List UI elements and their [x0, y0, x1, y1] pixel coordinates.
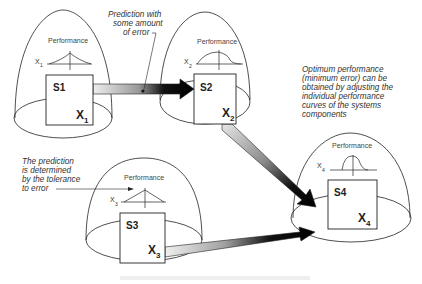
s1-performance-curve-icon: X 1	[35, 51, 92, 70]
svg-text:curves of the systems: curves of the systems	[302, 101, 381, 110]
svg-text:components: components	[302, 110, 347, 119]
annotation-tolerance: The prediction is determined by the tole…	[22, 157, 134, 193]
svg-text:by the tolerance: by the tolerance	[22, 175, 81, 184]
annotation-optimum: Optimum performance (minimum error) can …	[302, 65, 393, 119]
svg-text:(minimum error) can be: (minimum error) can be	[302, 74, 388, 83]
svg-text:4: 4	[366, 219, 371, 228]
s3-var: X	[148, 243, 156, 257]
svg-text:is determined: is determined	[22, 166, 72, 175]
svg-text:to error: to error	[22, 184, 49, 193]
system-box-s3: S3 X 3	[120, 213, 165, 263]
svg-text:1: 1	[40, 62, 43, 68]
s3-title: S3	[126, 220, 139, 231]
svg-text:2: 2	[230, 114, 235, 123]
svg-text:Prediction with: Prediction with	[108, 10, 162, 19]
system-box-s1: S1 X 1	[46, 75, 93, 125]
arrow-s1-to-s2	[93, 79, 194, 99]
svg-text:some amount: some amount	[113, 19, 163, 28]
s2-performance-curve-icon: X 2	[184, 50, 243, 70]
svg-text:The prediction: The prediction	[22, 157, 74, 166]
system-box-s2: S2 X 2	[194, 74, 236, 124]
s4-var: X	[358, 211, 366, 225]
arrow-s3-to-s4	[165, 227, 315, 257]
svg-text:4: 4	[322, 167, 325, 173]
svg-text:individual performance: individual performance	[302, 92, 385, 101]
annotation-prediction-error: Prediction with some amount of error	[108, 10, 163, 89]
s3-performance-label: Performance	[124, 174, 164, 181]
svg-text:1: 1	[84, 116, 89, 125]
svg-text:obtained by adjusting the: obtained by adjusting the	[302, 83, 393, 92]
arrow-s2-to-s4	[222, 124, 316, 207]
system-diagram: Performance X 1 Performance X 2 Performa…	[0, 0, 422, 284]
svg-text:3: 3	[156, 251, 161, 260]
svg-text:Optimum performance: Optimum performance	[302, 65, 384, 74]
s1-var: X	[76, 108, 84, 122]
system-box-s4: S4 X 4	[328, 180, 377, 229]
caption-strip	[120, 276, 310, 280]
svg-text:3: 3	[115, 201, 118, 207]
s2-title: S2	[200, 82, 213, 93]
s3-performance-curve-icon: X 3	[110, 188, 166, 208]
s4-performance-curve-icon: X 4	[317, 155, 377, 176]
s4-performance-label: Performance	[332, 142, 372, 149]
s2-performance-label: Performance	[197, 38, 237, 45]
s4-title: S4	[334, 187, 347, 198]
s1-title: S1	[53, 82, 66, 93]
svg-text:2: 2	[189, 63, 192, 69]
s2-var: X	[222, 106, 230, 120]
svg-text:of error: of error	[123, 28, 150, 37]
s1-performance-label: Performance	[48, 37, 88, 44]
